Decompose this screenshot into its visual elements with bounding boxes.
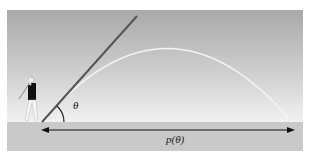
arrow-head-right: [287, 127, 295, 133]
golfer-icon: [19, 77, 38, 121]
trajectory-arc: [42, 49, 292, 123]
angle-label: θ: [73, 99, 78, 111]
diagram-graphics: [7, 10, 303, 151]
launch-angle-line: [42, 16, 137, 122]
angle-arc: [57, 106, 64, 122]
diagram-panel: θ p(θ): [7, 10, 303, 151]
range-label: p(θ): [166, 133, 184, 145]
arrow-head-left: [41, 127, 49, 133]
